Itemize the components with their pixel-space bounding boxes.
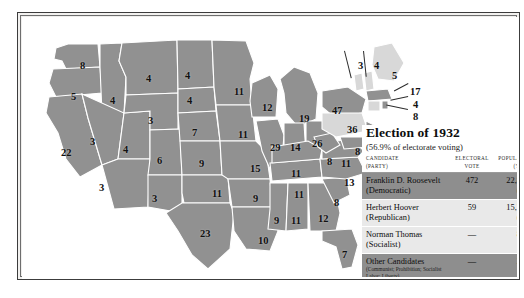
electoral-votes-nc: 13	[344, 178, 355, 189]
electoral-votes-ma: 17	[410, 87, 421, 98]
electoral-votes-ar: 9	[253, 194, 258, 205]
electoral-votes-mt: 4	[146, 74, 151, 85]
popular-vote-percent: (39.7%)	[492, 213, 517, 223]
electoral-votes-sd: 4	[187, 96, 192, 107]
electoral-votes-ri: 4	[413, 100, 418, 111]
electoral-votes-il: 29	[270, 143, 281, 154]
electoral-votes-va: 11	[341, 159, 351, 170]
electoral-votes-nm: 3	[152, 194, 157, 205]
electoral-votes-pa: 36	[347, 125, 358, 136]
legend-row: Herbert Hoover(Republican)5915,761,841(3…	[362, 200, 517, 226]
candidate-party: (Democratic)	[366, 186, 452, 196]
state-AZ	[102, 159, 150, 209]
candidate-name: Franklin D. Roosevelt	[366, 176, 452, 186]
electoral-votes-vt: 3	[358, 61, 363, 72]
candidate-cell: Herbert Hoover(Republican)	[366, 203, 452, 223]
electoral-votes-wi: 12	[262, 103, 273, 114]
column-header-candidate: CANDIDATE (PARTY)	[366, 155, 452, 170]
map-stage: .s-r{fill:#919191;stroke:#ffffff;stroke-…	[22, 17, 517, 277]
electoral-votes-nv: 3	[90, 137, 95, 148]
candidate-cell: Other Candidates(Communist; Prohibition;…	[366, 257, 452, 278]
electoral-votes-ga: 12	[318, 214, 329, 225]
electoral-votes-mn: 11	[234, 87, 244, 98]
legend-row: Franklin D. Roosevelt(Democratic)47222,8…	[362, 173, 517, 199]
election-results-legend: Election of 1932 (56.9% of electorate vo…	[362, 125, 517, 277]
electoral-votes-in: 14	[290, 143, 301, 154]
state-AR	[228, 179, 272, 207]
electoral-votes-oh: 26	[312, 139, 323, 150]
state-IA	[216, 105, 256, 141]
electoral-votes-id: 4	[110, 96, 115, 107]
electoral-votes-ok: 11	[212, 189, 222, 200]
candidate-name: Herbert Hoover	[366, 203, 452, 213]
state-VT	[354, 73, 364, 91]
electoral-votes-ct: 8	[413, 112, 418, 123]
electoral-votes-nh: 4	[374, 61, 379, 72]
electoral-votes-ca: 22	[61, 148, 72, 159]
state-CT	[368, 101, 380, 111]
candidate-cell: Franklin D. Roosevelt(Democratic)	[366, 176, 452, 196]
state-NE	[178, 111, 220, 141]
candidate-party: (Republican)	[366, 213, 452, 223]
electoral-vote-cell: —	[452, 257, 492, 266]
electoral-votes-co: 6	[157, 156, 162, 167]
candidate-name: Other Candidates	[366, 257, 452, 267]
electoral-votes-or: 5	[71, 92, 76, 103]
electoral-votes-fl: 7	[342, 250, 347, 261]
electoral-votes-md: 8	[355, 147, 360, 158]
electoral-votes-mo: 15	[250, 164, 261, 175]
legend-subtitle: (56.9% of electorate voting)	[362, 142, 517, 155]
state-FL	[322, 229, 358, 269]
election-map-figure: .s-r{fill:#919191;stroke:#ffffff;stroke-…	[0, 0, 524, 298]
state-MT	[119, 40, 178, 95]
state-MA	[366, 89, 392, 101]
candidate-party: (Socialist)	[366, 240, 452, 250]
popular-vote-count: 15,761,841	[492, 203, 517, 213]
electoral-votes-wv: 8	[327, 157, 332, 168]
electoral-votes-nd: 4	[185, 71, 190, 82]
legend-title: Election of 1932	[362, 125, 517, 142]
electoral-votes-wa: 8	[80, 61, 85, 72]
popular-vote-count: 271,355	[492, 257, 517, 267]
popular-vote-percent: (2.2%)	[492, 240, 517, 250]
candidate-cell: Norman Thomas(Socialist)	[366, 230, 452, 250]
electoral-vote-cell: 472	[452, 176, 492, 185]
state-MN	[212, 40, 254, 105]
electoral-votes-az: 3	[99, 183, 104, 194]
electoral-votes-tx: 23	[200, 229, 211, 240]
popular-vote-cell: 15,761,841(39.7%)	[492, 203, 517, 223]
electoral-votes-ne: 7	[192, 128, 197, 139]
popular-vote-percent: (57.4%)	[492, 186, 517, 196]
electoral-votes-la: 10	[258, 236, 269, 247]
state-CO	[148, 129, 182, 175]
electoral-votes-ny: 47	[332, 106, 343, 117]
electoral-votes-al: 11	[291, 216, 301, 227]
electoral-vote-cell: —	[452, 230, 492, 239]
popular-vote-count: 22,821,857	[492, 176, 517, 186]
candidate-note: (Communist; Prohibition; Socialist Labor…	[366, 266, 452, 277]
electoral-votes-ms: 9	[274, 216, 279, 227]
column-header-electoral-vote: ELECTORAL VOTE	[452, 155, 492, 170]
popular-vote-cell: 22,821,857(57.4%)	[492, 176, 517, 196]
electoral-votes-mi: 19	[299, 114, 310, 125]
electoral-votes-me: 5	[392, 71, 397, 82]
state-ND	[177, 40, 214, 89]
popular-vote-percent: (0.7%)	[492, 266, 517, 276]
legend-column-headers: CANDIDATE (PARTY) ELECTORAL VOTE POPULAR…	[362, 155, 517, 173]
electoral-votes-tn: 11	[291, 169, 301, 180]
electoral-vote-cell: 59	[452, 203, 492, 212]
electoral-votes-ia: 11	[238, 130, 248, 141]
state-WA	[54, 44, 100, 69]
electoral-votes-ut: 4	[123, 145, 128, 156]
electoral-votes-ks: 9	[199, 159, 204, 170]
popular-vote-count: 881,951	[492, 230, 517, 240]
electoral-votes-wy: 3	[148, 116, 153, 127]
state-SD	[178, 87, 216, 113]
candidate-name: Norman Thomas	[366, 230, 452, 240]
popular-vote-cell: 881,951(2.2%)	[492, 230, 517, 250]
column-header-popular-vote: POPULAR VOT (%)	[492, 155, 517, 170]
legend-rows: Franklin D. Roosevelt(Democratic)47222,8…	[362, 173, 517, 277]
popular-vote-cell: 271,355(0.7%)	[492, 257, 517, 277]
state-OK	[182, 175, 230, 203]
legend-row: Other Candidates(Communist; Prohibition;…	[362, 254, 517, 278]
